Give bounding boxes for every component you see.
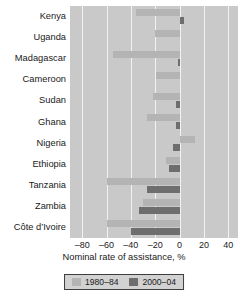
x-tick-label: 20 [199, 240, 209, 250]
bar-row [70, 217, 238, 238]
bar-zambia-early [143, 199, 180, 206]
legend-item: 1980–84 [72, 277, 118, 287]
y-axis-label: Tanzania [0, 180, 66, 191]
bar-row [70, 154, 238, 175]
bar-sudan-late [176, 101, 180, 108]
y-axis-label: Kenya [0, 11, 66, 22]
bar-madagascar-late [178, 59, 179, 66]
bar-madagascar-early [113, 51, 180, 58]
bar-row [70, 27, 238, 48]
bar-cameroon-early [156, 72, 179, 79]
legend-swatch-icon [130, 278, 139, 286]
y-axis-label: Ethiopia [0, 159, 66, 170]
bar-tanzania-late [147, 186, 180, 193]
bar-row [70, 6, 238, 27]
bar-row [70, 48, 238, 69]
legend-swatch-icon [72, 278, 81, 286]
y-axis-label: Zambia [0, 201, 66, 212]
bar-ghana-early [147, 114, 180, 121]
x-tick-label: –60 [99, 240, 114, 250]
y-axis-label: Sudan [0, 95, 66, 106]
x-tick-label: –20 [148, 240, 163, 250]
bar-zambia-late [139, 207, 179, 214]
bar-row [70, 133, 238, 154]
bar-row [70, 90, 238, 111]
bar-kenya-early [136, 9, 180, 16]
bar-kenya-late [180, 17, 185, 24]
bar-nigeria-late [173, 144, 179, 151]
y-axis-label: Cameroon [0, 74, 66, 85]
bar-c-te-d-ivoire-late [131, 228, 180, 235]
x-axis-title: Nominal rate of assistance, % [0, 252, 248, 262]
y-axis-label: Madagascar [0, 53, 66, 64]
bar-row [70, 175, 238, 196]
bar-ethiopia-early [166, 157, 179, 164]
bar-c-te-d-ivoire-early [107, 220, 180, 227]
bar-uganda-early [155, 30, 179, 37]
plot-area [70, 6, 238, 238]
legend-item: 2000–04 [130, 277, 176, 287]
x-tick-label: 0 [177, 240, 182, 250]
bar-row [70, 69, 238, 90]
bar-ethiopia-late [169, 165, 180, 172]
chart-legend: 1980–842000–04 [64, 274, 184, 290]
bar-ghana-late [176, 122, 180, 129]
y-axis-label: Nigeria [0, 138, 66, 149]
x-axis-ticks: –80–60–40–2002040 [70, 238, 238, 252]
bar-nigeria-early [180, 136, 196, 143]
bar-sudan-early [153, 93, 180, 100]
legend-label: 1980–84 [85, 277, 118, 287]
y-axis-labels: KenyaUgandaMadagascarCameroonSudanGhanaN… [0, 6, 66, 238]
bar-row [70, 196, 238, 217]
legend-label: 2000–04 [143, 277, 176, 287]
y-axis-label: Ghana [0, 117, 66, 128]
y-axis-label: Uganda [0, 32, 66, 43]
chart-figure: KenyaUgandaMadagascarCameroonSudanGhanaN… [0, 0, 248, 307]
x-tick-label: –40 [123, 240, 138, 250]
y-axis-label: Côte d’Ivoire [0, 222, 66, 233]
bar-tanzania-early [107, 178, 180, 185]
x-tick-label: –80 [75, 240, 90, 250]
x-tick-label: 40 [223, 240, 233, 250]
bar-row [70, 111, 238, 132]
